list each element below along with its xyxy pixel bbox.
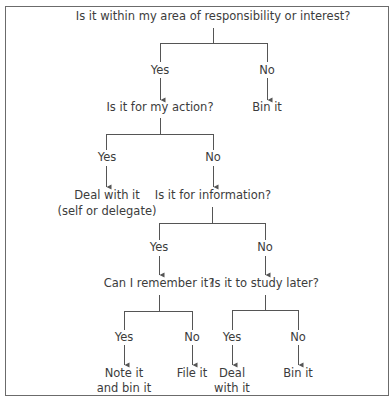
remember-no-label: No xyxy=(184,330,200,345)
action-yes-label: Yes xyxy=(98,150,117,165)
study-question: Is it to study later? xyxy=(211,276,319,291)
root-question: Is it within my area of responsibility o… xyxy=(76,9,351,24)
remember-yes-outcome-line2: and bin it xyxy=(97,381,151,396)
remember-no-outcome: File it xyxy=(177,366,208,381)
study-yes-outcome-line2: with it xyxy=(214,381,250,396)
information-yes-label: Yes xyxy=(150,240,169,255)
information-no-label: No xyxy=(257,240,273,255)
study-yes-label: Yes xyxy=(223,330,242,345)
remember-yes-label: Yes xyxy=(115,330,134,345)
action-question: Is it for my action? xyxy=(106,100,213,115)
information-question: Is it for information? xyxy=(155,188,271,203)
remember-yes-outcome-line1: Note it xyxy=(105,366,144,381)
root-no-outcome: Bin it xyxy=(252,100,282,115)
remember-question: Can I remember it? xyxy=(104,276,215,291)
action-no-label: No xyxy=(205,150,221,165)
root-yes-label: Yes xyxy=(151,63,170,78)
action-yes-outcome-line1: Deal with it xyxy=(74,188,140,203)
root-no-label: No xyxy=(259,63,275,78)
study-no-label: No xyxy=(290,330,306,345)
action-yes-outcome-line2: (self or delegate) xyxy=(58,204,157,219)
study-yes-outcome-line1: Deal xyxy=(219,366,245,381)
study-no-outcome: Bin it xyxy=(283,366,313,381)
